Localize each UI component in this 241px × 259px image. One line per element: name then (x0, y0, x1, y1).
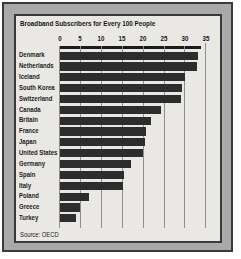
country-label: Japan (19, 138, 36, 146)
country-label: Switzerland (19, 95, 52, 103)
country-label: United States (19, 149, 57, 157)
x-axis-tick-label: 35 (197, 35, 215, 42)
chart-panel: Broadband Subscribers for Every 100 Peop… (14, 14, 222, 243)
bar (60, 182, 123, 190)
bar (60, 193, 89, 201)
x-axis-tick-label: 30 (176, 35, 194, 42)
source-note: Source: OECD (20, 231, 59, 238)
bar (60, 214, 76, 222)
country-label: Turkey (19, 214, 38, 222)
bar (60, 84, 182, 92)
country-label: Italy (19, 182, 31, 190)
outer-frame: Broadband Subscribers for Every 100 Peop… (2, 2, 233, 252)
bar (60, 160, 131, 168)
bar (60, 52, 198, 60)
x-axis-tick-label: 20 (134, 35, 152, 42)
country-label: Germany (19, 160, 45, 168)
bar (60, 149, 143, 157)
country-label: Poland (19, 192, 39, 200)
bar (60, 106, 161, 114)
bar (60, 171, 124, 179)
gridline (205, 43, 206, 228)
bar (60, 117, 151, 125)
bar (60, 138, 145, 146)
country-label: Denmark (19, 51, 45, 59)
bar (60, 127, 146, 135)
country-label: South Korea (19, 84, 55, 92)
x-axis-tick-label: 10 (92, 35, 110, 42)
country-label: Netherlands (19, 62, 54, 70)
x-axis-tick-label: 5 (72, 35, 90, 42)
bar (60, 73, 185, 81)
bar (60, 95, 181, 103)
bar (60, 62, 197, 70)
x-axis-tick-label: 25 (155, 35, 173, 42)
bar (60, 203, 80, 211)
country-label: Canada (19, 106, 41, 114)
country-label: Iceland (19, 73, 40, 81)
country-label: Spain (19, 171, 35, 179)
country-label: Britain (19, 116, 38, 124)
country-label: France (19, 127, 39, 135)
x-axis-tick-label: 15 (113, 35, 131, 42)
country-label: Greece (19, 203, 39, 211)
chart-title: Broadband Subscribers for Every 100 Peop… (20, 19, 155, 28)
x-axis-tick-label: 0 (51, 35, 69, 42)
